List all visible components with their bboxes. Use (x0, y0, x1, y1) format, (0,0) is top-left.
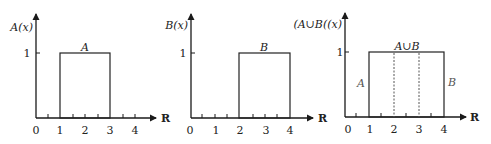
svg-text:4: 4 (132, 124, 139, 137)
panel-b: 1 B(x) B R 0 1 2 3 4 (164, 14, 328, 137)
left-set-a-label: A (356, 77, 365, 90)
x-axis-label: R (161, 112, 171, 125)
level-1-label: 1 (180, 47, 187, 60)
x-tick-labels: 0 1 2 3 4 (33, 124, 139, 137)
svg-text:3: 3 (263, 124, 270, 137)
set-b-membership (239, 53, 290, 118)
x-axis-label: R (470, 111, 480, 124)
svg-text:2: 2 (391, 123, 398, 136)
svg-text:4: 4 (287, 124, 294, 137)
svg-text:1: 1 (57, 124, 64, 137)
svg-text:2: 2 (237, 124, 244, 137)
svg-text:3: 3 (416, 123, 423, 136)
set-b-label: B (259, 41, 268, 54)
x-tick-labels: 0 1 2 3 4 (187, 124, 294, 137)
level-1-label: 1 (24, 47, 31, 60)
x-axis-label: R (318, 112, 328, 125)
x-tick-labels: 0 1 2 3 4 (345, 123, 448, 136)
svg-text:1: 1 (213, 124, 220, 137)
svg-text:0: 0 (33, 124, 40, 137)
union-membership (369, 52, 444, 117)
y-axis-label: B(x) (164, 19, 188, 32)
union-label: A∪B (393, 40, 419, 53)
set-a-label: A (80, 41, 89, 54)
svg-text:2: 2 (82, 124, 89, 137)
svg-text:1: 1 (367, 123, 374, 136)
right-set-b-label: B (447, 76, 456, 89)
panel-a: 1 A(x) A R 0 1 2 3 4 (9, 14, 171, 137)
y-axis-label: A(x) (9, 21, 33, 34)
y-axis-label: (A∪B((x) (293, 18, 342, 31)
fuzzy-set-union-diagram: 1 A(x) A R 0 1 2 3 4 1 B(x) B R 0 (0, 0, 491, 144)
svg-text:4: 4 (441, 123, 448, 136)
set-a-membership (60, 53, 110, 118)
level-1-label: 1 (337, 46, 344, 59)
svg-text:0: 0 (345, 123, 352, 136)
svg-text:3: 3 (107, 124, 114, 137)
svg-text:0: 0 (187, 124, 194, 137)
